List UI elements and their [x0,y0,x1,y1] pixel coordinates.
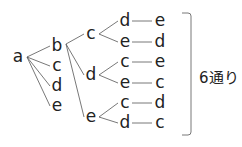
level4-node: d [155,33,166,50]
level1-node: d [52,77,63,94]
level2-node: d [86,66,97,83]
level4-node: c [155,114,164,131]
level4-node: c [155,74,164,91]
level2-node: e [86,108,96,125]
root-node: a [13,48,23,65]
level4-node: e [155,53,165,70]
level3-node: e [120,74,130,91]
result-count-label: 6通り [199,66,239,87]
level1-node: b [52,37,63,54]
level1-node: e [52,97,62,114]
level1-node: c [52,57,61,74]
level2-node: c [86,25,95,42]
level4-node: e [155,12,165,29]
level3-node: d [120,12,131,29]
level3-node: c [120,53,129,70]
level3-node: d [120,114,131,131]
level4-node: d [155,94,166,111]
level3-node: c [120,94,129,111]
level3-node: e [120,33,130,50]
